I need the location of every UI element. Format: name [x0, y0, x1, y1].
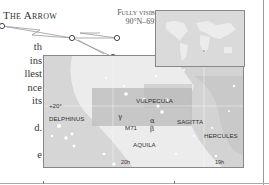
bottom-tick	[174, 181, 175, 184]
ra-label-19h: 19h	[215, 159, 224, 165]
star-label-gamma: γ	[118, 113, 122, 121]
world-map-inset	[155, 10, 245, 67]
page-bottom-border	[0, 183, 269, 184]
declination-label: +20°	[49, 102, 62, 109]
sky-background	[44, 56, 244, 168]
constellation-label-hercules: HERCULES	[204, 132, 238, 139]
body-text: th ins llest nce its d. e	[0, 40, 42, 162]
constellation-label-aquila: AQUILA	[133, 141, 156, 148]
constellation-label-delphinus: DELPHINUS	[49, 115, 84, 122]
object-label-m71: M71	[125, 124, 137, 131]
world-map-icon	[156, 11, 245, 67]
constellation-label-sagitta: SAGITTA	[177, 118, 203, 125]
star-chart: +20° DELPHINUS VULPECULA SAGITTA AQUILA …	[43, 55, 244, 168]
ra-label-20h: 20h	[121, 159, 130, 165]
bottom-tick	[43, 181, 44, 184]
star-label-beta: β	[150, 125, 154, 133]
star-label-alpha: α	[150, 117, 155, 125]
constellation-label-vulpecula: VULPECULA	[136, 97, 173, 104]
page-right-border	[263, 0, 264, 185]
